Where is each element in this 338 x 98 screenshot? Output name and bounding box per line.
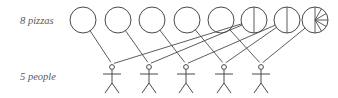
person-1[interactable] [103, 65, 121, 93]
pizza-5-outline [208, 7, 234, 33]
pizza-2-outline [105, 7, 131, 33]
pizza-1-outline [70, 7, 96, 33]
edge-pizza-7-to-person-3 [188, 25, 275, 63]
pizza-4-outline [174, 7, 200, 33]
person-5[interactable] [252, 65, 270, 93]
person-3-leg-right [186, 83, 193, 93]
person-2[interactable] [140, 65, 158, 93]
edge-pizza-2-to-person-2 [125, 31, 147, 62]
person-4-leg-left [217, 83, 224, 93]
person-3-leg-left [179, 83, 186, 93]
diagram-canvas: 8 pizzas 5 people [0, 0, 338, 98]
person-5-leg-right [261, 83, 268, 93]
person-5-leg-left [254, 83, 261, 93]
person-1-leg-left [105, 83, 112, 93]
pizza-6[interactable] [241, 7, 267, 33]
person-4[interactable] [215, 65, 233, 93]
pizza-4[interactable] [174, 7, 200, 33]
person-4-head [222, 65, 227, 70]
pizza-8[interactable] [302, 7, 328, 33]
person-1-leg-right [112, 83, 119, 93]
pizzas-layer [70, 7, 328, 33]
pizza-2[interactable] [105, 7, 131, 33]
bottom-row-label: 5 people [20, 71, 56, 82]
edge-pizza-3-to-person-3 [160, 30, 185, 62]
pizza-7[interactable] [274, 7, 300, 33]
person-2-head [147, 65, 152, 70]
edge-pizza-8-to-person-5 [263, 28, 305, 62]
pizza-3-outline [139, 7, 165, 33]
person-2-leg-right [149, 83, 156, 93]
person-3[interactable] [177, 65, 195, 93]
people-layer [103, 65, 270, 93]
top-row-label: 8 pizzas [20, 15, 54, 26]
pizza-people-diagram: 8 pizzas 5 people [0, 0, 338, 98]
person-1-head [110, 65, 115, 70]
edge-pizza-1-to-person-1 [90, 31, 110, 62]
pizza-3[interactable] [139, 7, 165, 33]
person-2-leg-left [142, 83, 149, 93]
person-3-head [184, 65, 189, 70]
pizza-5[interactable] [208, 7, 234, 33]
person-4-leg-right [224, 83, 231, 93]
pizza-1[interactable] [70, 7, 96, 33]
edges-layer [90, 24, 305, 63]
person-5-head [259, 65, 264, 70]
